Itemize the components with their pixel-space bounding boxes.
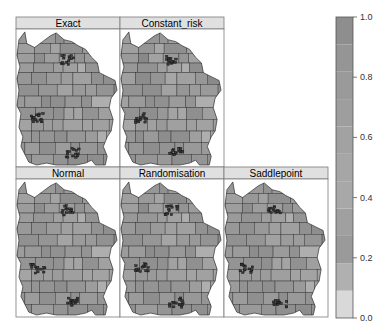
map-region xyxy=(129,293,144,305)
map-region xyxy=(168,108,178,120)
map-region xyxy=(86,234,97,246)
map-region xyxy=(179,203,189,213)
map-region xyxy=(39,234,58,246)
urban-region xyxy=(42,113,45,115)
map-region xyxy=(165,73,177,85)
urban-region xyxy=(71,147,74,149)
map-region xyxy=(156,119,167,131)
map-region xyxy=(138,213,158,223)
map-region xyxy=(63,63,78,73)
urban-region xyxy=(32,264,35,266)
map-region xyxy=(190,234,201,246)
map-region xyxy=(73,84,86,96)
map-region xyxy=(53,213,63,223)
map-region xyxy=(74,258,83,270)
map-region xyxy=(17,84,39,96)
urban-region xyxy=(75,156,78,158)
urban-region xyxy=(250,271,253,273)
map-region xyxy=(144,143,160,155)
urban-region xyxy=(40,268,43,270)
panel-normal: Normal xyxy=(16,167,120,317)
map-region xyxy=(265,234,281,246)
map-region xyxy=(261,213,271,223)
urban-region xyxy=(176,208,179,210)
map-region xyxy=(67,131,86,143)
urban-region xyxy=(141,266,144,268)
map-region xyxy=(167,269,187,281)
map-region xyxy=(50,44,60,54)
urban-region xyxy=(170,214,173,216)
map-region xyxy=(129,143,144,155)
urban-region xyxy=(135,265,138,267)
map-region xyxy=(78,213,86,223)
map-region xyxy=(121,234,143,246)
urban-region xyxy=(267,209,270,211)
urban-region xyxy=(36,268,39,270)
map-region xyxy=(50,194,60,204)
map-region xyxy=(32,281,40,293)
urban-region xyxy=(178,298,181,300)
map-region xyxy=(40,281,55,293)
urban-region xyxy=(68,57,71,59)
map-region xyxy=(233,246,250,258)
map-region xyxy=(187,119,197,131)
map-region xyxy=(294,234,305,246)
urban-region xyxy=(72,57,75,59)
urban-region xyxy=(172,302,175,304)
map-region xyxy=(186,96,196,108)
panel-title: Saddlepoint xyxy=(250,168,303,179)
map-region xyxy=(73,234,86,246)
urban-region xyxy=(139,271,142,273)
map-region xyxy=(75,53,85,63)
map-region xyxy=(63,269,83,281)
map-region xyxy=(177,234,190,246)
map-region xyxy=(154,96,169,108)
map-region xyxy=(136,281,144,293)
map-region xyxy=(35,203,45,213)
map-region xyxy=(196,223,208,235)
urban-region xyxy=(61,211,64,213)
urban-region xyxy=(270,211,273,213)
urban-region xyxy=(32,116,35,118)
map-region xyxy=(44,203,59,213)
map-region xyxy=(250,246,259,258)
map-region xyxy=(40,293,56,305)
map-region xyxy=(92,223,104,235)
map-region xyxy=(17,53,35,63)
map-region xyxy=(291,269,301,281)
map-region xyxy=(93,269,110,281)
map-region xyxy=(161,234,177,246)
map-region xyxy=(196,73,208,85)
urban-region xyxy=(166,205,169,207)
urban-region xyxy=(176,205,179,207)
urban-region xyxy=(135,268,138,270)
urban-region xyxy=(165,55,168,57)
urban-region xyxy=(67,63,70,65)
map-region xyxy=(283,203,293,213)
urban-region xyxy=(78,148,81,150)
map-region xyxy=(225,203,243,213)
urban-region xyxy=(145,270,148,272)
urban-region xyxy=(175,302,178,304)
map-region xyxy=(282,258,291,270)
map-region xyxy=(140,108,158,120)
urban-region xyxy=(61,55,64,57)
map-region xyxy=(300,223,312,235)
map-region xyxy=(35,53,45,63)
map-region xyxy=(258,246,273,258)
map-region xyxy=(301,269,318,281)
urban-region xyxy=(180,306,183,308)
colorbar-bin xyxy=(336,291,353,318)
urban-region xyxy=(273,206,276,208)
urban-region xyxy=(72,301,75,303)
map-region xyxy=(64,108,74,120)
map-region xyxy=(197,269,214,281)
map-region xyxy=(143,234,162,246)
map-region xyxy=(178,258,187,270)
urban-region xyxy=(63,214,66,216)
map-region xyxy=(168,258,178,270)
map-region xyxy=(190,281,202,293)
colorbar-tick-label: 0.0 xyxy=(360,313,373,323)
urban-region xyxy=(244,269,247,271)
map-region xyxy=(271,213,286,223)
